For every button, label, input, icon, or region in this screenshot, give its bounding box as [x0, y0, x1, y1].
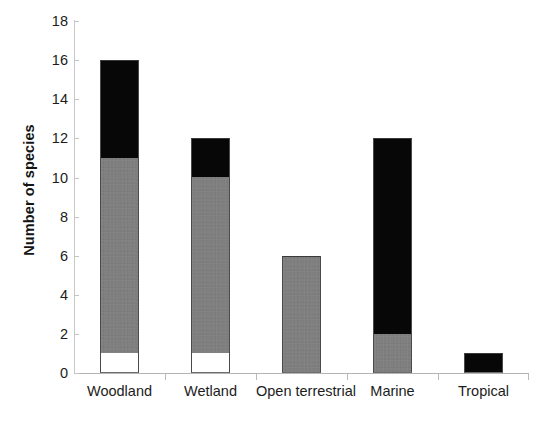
bar-marine-segment-gray [373, 334, 412, 373]
bar-marine[interactable] [373, 138, 412, 373]
x-axis-line [74, 373, 529, 374]
bar-chart-figure: Number of species 18 16 14 12 10 8 6 4 2… [0, 0, 548, 422]
bar-wetland-segment-black [191, 138, 230, 177]
x-tick-label-open-terrestrial: Open terrestrial [256, 383, 347, 399]
x-tick-mark-5 [528, 374, 529, 380]
x-tick-label-woodland: Woodland [74, 383, 165, 399]
y-tick-label-4: 4 [42, 287, 68, 303]
y-tick-label-18: 18 [42, 13, 68, 29]
x-tick-label-tropical: Tropical [438, 383, 529, 399]
bar-wetland[interactable] [191, 138, 230, 373]
bar-marine-segment-black [373, 138, 412, 334]
x-tick-mark-1 [165, 374, 166, 380]
x-tick-label-marine: Marine [347, 383, 438, 399]
x-tick-label-wetland: Wetland [165, 383, 256, 399]
x-tick-mark-4 [438, 374, 439, 380]
x-tick-mark-2 [256, 374, 257, 380]
bar-woodland-segment-white [100, 353, 139, 373]
y-axis-tick-labels: 18 16 14 12 10 8 6 4 2 0 [40, 0, 68, 422]
y-tick-label-16: 16 [42, 52, 68, 68]
y-axis-title-text: Number of species [21, 124, 37, 255]
y-tick-label-0: 0 [42, 365, 68, 381]
bar-woodland[interactable] [100, 60, 139, 373]
y-tick-label-14: 14 [42, 91, 68, 107]
bar-woodland-segment-black [100, 60, 139, 158]
y-tick-label-2: 2 [42, 326, 68, 342]
y-tick-label-12: 12 [42, 130, 68, 146]
y-tick-label-10: 10 [42, 170, 68, 186]
bar-woodland-segment-gray [100, 158, 139, 354]
plot-area [74, 21, 528, 373]
bar-open-terrestrial-segment-gray [282, 256, 321, 373]
bar-tropical[interactable] [464, 353, 503, 373]
y-tick-mark-0 [74, 373, 79, 374]
bar-wetland-segment-gray [191, 177, 230, 353]
y-tick-label-8: 8 [42, 209, 68, 225]
bar-open-terrestrial[interactable] [282, 256, 321, 373]
y-axis-title: Number of species [18, 0, 40, 380]
bar-wetland-segment-white [191, 353, 230, 373]
bar-tropical-segment-black [464, 353, 503, 373]
y-tick-label-6: 6 [42, 248, 68, 264]
x-tick-mark-3 [347, 374, 348, 380]
